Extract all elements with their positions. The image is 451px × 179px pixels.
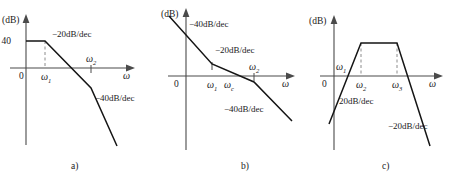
- panel-c-x-axis-label: ω: [429, 78, 436, 89]
- panel-c-slope-minus-20-label: −20dB/dec: [388, 121, 428, 131]
- panel-c-omega1-subscript: 1: [343, 67, 346, 74]
- panel-a-omega2-subscript: 2: [93, 59, 97, 66]
- panel-c-omega3-label: ω 3: [392, 79, 403, 92]
- panel-a-y-axis-label: (dB): [2, 15, 19, 26]
- panel-b-origin-label: 0: [174, 79, 179, 89]
- panel-b-omega2-label: ω 2: [249, 61, 260, 74]
- panel-a-omega2-symbol: ω: [86, 53, 93, 64]
- panel-b-omega2-subscript: 2: [256, 67, 260, 74]
- panel-b-omega1-symbol: ω: [207, 79, 214, 90]
- panel-b-omega-c-label: ω c: [224, 79, 234, 92]
- panel-b-slope-minus-20-label: −20dB/dec: [215, 45, 255, 55]
- panel-a-origin-label: 0: [19, 71, 24, 81]
- panel-b: (dB) ω 0 ω 1 ω c ω 2 −40dB/dec −20dB/dec…: [161, 8, 295, 172]
- panel-c-slope-plus-20-label: 20dB/dec: [339, 96, 374, 106]
- panel-a-omega1-label: ω 1: [41, 71, 51, 84]
- panel-b-omega1-subscript: 1: [214, 85, 217, 92]
- panel-a-omega2-label: ω 2: [86, 53, 97, 66]
- panel-c-omega3-subscript: 3: [398, 85, 403, 92]
- panel-c-caption: c): [382, 161, 389, 172]
- panel-a-x-axis-label: ω: [123, 70, 130, 81]
- panel-a-slope-minus-20-label: −20dB/dec: [52, 29, 92, 39]
- panel-b-slope-minus-40-upper-label: −40dB/dec: [189, 19, 229, 29]
- panel-b-omega-c-symbol: ω: [224, 79, 231, 90]
- panel-b-omega2-symbol: ω: [249, 61, 256, 72]
- panel-c-y-axis-arrow: [331, 15, 338, 24]
- panel-a: (dB) ω 0 40 ω 1 ω 2 −20dB/dec −40dB/dec …: [2, 14, 136, 172]
- panel-a-slope-minus-40-label: −40dB/dec: [95, 93, 135, 103]
- panel-c-omega3-symbol: ω: [392, 79, 399, 90]
- panel-c-origin-label: 0: [322, 79, 327, 89]
- panel-c-omega2-symbol: ω: [356, 79, 363, 90]
- panel-b-y-axis-arrow: [183, 8, 190, 17]
- panel-b-omega1-label: ω 1: [207, 79, 217, 92]
- panel-b-y-axis-label: (dB): [161, 9, 178, 20]
- panel-a-omega1-symbol: ω: [41, 71, 48, 82]
- panel-b-omega-c-subscript: c: [231, 85, 234, 92]
- panel-b-x-axis-label: ω: [282, 78, 289, 89]
- panel-b-caption: b): [241, 161, 249, 172]
- figure-canvas: (dB) ω 0 40 ω 1 ω 2 −20dB/dec −40dB/dec …: [0, 0, 451, 179]
- panel-c-omega1-label: ω 1: [336, 61, 346, 74]
- bode-plot-figure: (dB) ω 0 40 ω 1 ω 2 −20dB/dec −40dB/dec …: [0, 0, 451, 179]
- panel-a-y-axis-arrow: [23, 14, 30, 23]
- panel-a-omega1-subscript: 1: [48, 77, 51, 84]
- panel-a-caption: a): [71, 161, 78, 172]
- panel-a-gain-40db-label: 40: [2, 36, 12, 46]
- panel-c-y-axis-label: (dB): [309, 16, 326, 27]
- panel-c-omega2-label: ω 2: [356, 79, 367, 92]
- panel-b-slope-minus-40-lower-label: −40dB/dec: [224, 104, 264, 114]
- panel-c-omega2-subscript: 2: [363, 85, 367, 92]
- panel-c: (dB) ω 0 ω 1 ω 2 ω 3 20dB/dec −20dB/dec …: [309, 15, 443, 172]
- panel-c-omega1-symbol: ω: [336, 61, 343, 72]
